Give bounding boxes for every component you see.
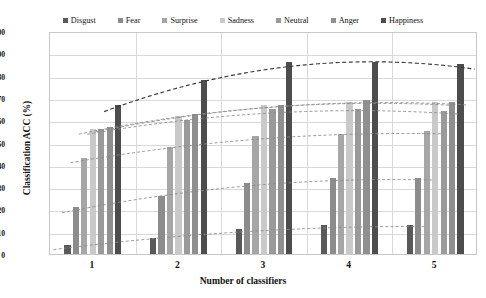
legend-item-disgust[interactable]: Disgust	[63, 17, 96, 25]
bar-surprise-group-4	[338, 134, 344, 254]
legend-item-anger[interactable]: Anger	[331, 17, 359, 25]
legend-swatch-icon	[276, 18, 281, 23]
x-axis-tick-label: 3	[261, 259, 266, 270]
bar-happiness-group-5	[457, 64, 463, 254]
bar-fear-group-4	[330, 178, 336, 254]
bar-happiness-group-1	[115, 105, 121, 254]
x-axis-tick-label: 2	[175, 259, 180, 270]
y-axis-tick-label: 0	[0, 251, 5, 260]
bar-anger-group-5	[449, 102, 455, 254]
y-axis-tick-label: 50	[0, 139, 5, 148]
y-axis-tick-label: 20	[0, 206, 5, 215]
y-axis-label: Classification ACC (%)	[22, 73, 32, 223]
bar-sadness-group-3	[261, 105, 267, 254]
bar-fear-group-2	[158, 196, 164, 254]
legend-item-neutral[interactable]: Neutral	[276, 17, 309, 25]
legend-item-fear[interactable]: Fear	[118, 17, 141, 25]
legend-item-surprise[interactable]: Surprise	[162, 17, 197, 25]
bar-surprise-group-3	[252, 136, 258, 254]
y-axis-tick-label: 60	[0, 117, 5, 126]
legend-swatch-icon	[63, 18, 68, 23]
bar-chart: DisgustFearSurpriseSadnessNeutralAngerHa…	[0, 0, 486, 298]
gridline	[50, 78, 476, 79]
bar-disgust-group-4	[321, 225, 327, 254]
y-axis-tick-label: 40	[0, 161, 5, 170]
bar-anger-group-4	[363, 100, 369, 254]
group-separator	[307, 33, 308, 254]
y-axis-tick-label: 80	[0, 72, 5, 81]
gridline	[50, 55, 476, 56]
bar-neutral-group-4	[355, 109, 361, 254]
bar-disgust-group-5	[407, 225, 413, 254]
x-axis-tick-label: 5	[432, 259, 437, 270]
bar-neutral-group-5	[441, 111, 447, 254]
bar-happiness-group-2	[201, 80, 207, 254]
bar-sadness-group-1	[90, 129, 96, 254]
legend-item-label: Neutral	[284, 17, 309, 25]
bar-happiness-group-4	[372, 62, 378, 254]
bar-neutral-group-1	[98, 129, 104, 254]
bar-surprise-group-1	[81, 158, 87, 254]
legend-item-happiness[interactable]: Happiness	[381, 17, 423, 25]
legend-item-label: Surprise	[170, 17, 197, 25]
legend-swatch-icon	[220, 18, 225, 23]
y-axis-tick-label: 10	[0, 228, 5, 237]
legend-item-label: Happiness	[389, 17, 423, 25]
group-separator	[392, 33, 393, 254]
bar-anger-group-2	[192, 114, 198, 254]
y-axis-tick-label: 70	[0, 94, 5, 103]
bar-fear-group-1	[73, 207, 79, 254]
bar-surprise-group-2	[167, 147, 173, 254]
bar-neutral-group-3	[269, 109, 275, 254]
gridline	[50, 100, 476, 101]
bar-disgust-group-1	[64, 245, 70, 254]
bar-disgust-group-3	[236, 229, 242, 254]
legend-swatch-icon	[331, 18, 336, 23]
bar-sadness-group-2	[175, 116, 181, 254]
legend-item-label: Fear	[126, 17, 141, 25]
legend-swatch-icon	[118, 18, 123, 23]
chart-legend: DisgustFearSurpriseSadnessNeutralAngerHa…	[0, 14, 486, 28]
y-axis-tick-label: 100	[0, 28, 5, 37]
legend-item-label: Disgust	[71, 17, 96, 25]
bar-surprise-group-5	[424, 131, 430, 254]
group-separator	[136, 33, 137, 254]
x-axis-tick-label: 4	[346, 259, 351, 270]
legend-swatch-icon	[381, 18, 386, 23]
y-axis-tick-label: 30	[0, 184, 5, 193]
bar-neutral-group-2	[184, 120, 190, 254]
legend-item-label: Anger	[339, 17, 359, 25]
bar-anger-group-3	[278, 105, 284, 254]
group-separator	[221, 33, 222, 254]
bar-happiness-group-3	[286, 62, 292, 254]
bar-sadness-group-5	[432, 102, 438, 254]
bar-fear-group-3	[244, 183, 250, 254]
bar-disgust-group-2	[150, 238, 156, 254]
y-axis-tick-label: 90	[0, 50, 5, 59]
legend-swatch-icon	[162, 18, 167, 23]
legend-item-sadness[interactable]: Sadness	[220, 17, 254, 25]
x-axis-tick-label: 1	[89, 259, 94, 270]
plot-area	[49, 32, 477, 255]
bar-sadness-group-4	[346, 102, 352, 254]
bar-anger-group-1	[107, 127, 113, 254]
x-axis-label: Number of classifiers	[0, 275, 486, 286]
bar-fear-group-5	[415, 178, 421, 254]
legend-item-label: Sadness	[228, 17, 254, 25]
